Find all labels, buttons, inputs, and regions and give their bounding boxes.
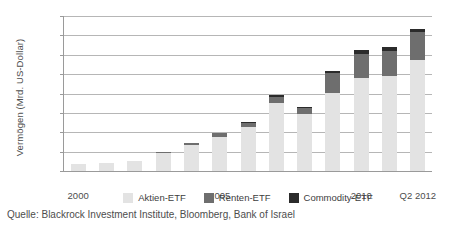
y-axis-title: Vermögen (Mrd. US-Dollar): [14, 13, 25, 183]
bar-segment-aktien-etf: [156, 153, 171, 171]
gridline: [64, 16, 432, 17]
y-tick-mark: [60, 74, 64, 75]
gridline: [64, 35, 432, 36]
bar-segment-aktien-etf: [269, 103, 284, 171]
legend-swatch-icon: [289, 193, 299, 203]
legend-swatch-icon: [123, 193, 133, 203]
bar-segment-aktien-etf: [354, 78, 369, 171]
y-tick-mark: [60, 16, 64, 17]
bar-2010[interactable]: [354, 50, 369, 171]
bar-segment-renten-etf: [382, 51, 397, 76]
bar-segment-renten-etf: [410, 32, 425, 59]
legend-swatch-icon: [204, 193, 214, 203]
legend-item-renten-etf[interactable]: Renten-ETF: [204, 192, 271, 203]
legend-label: Aktien-ETF: [138, 192, 186, 203]
chart-figure: Vermögen (Mrd. US-Dollar) 02004006008001…: [0, 0, 473, 225]
bar-segment-aktien-etf: [212, 137, 227, 171]
gridline: [64, 113, 432, 114]
bar-2001[interactable]: [99, 163, 114, 171]
y-tick-mark: [60, 94, 64, 95]
bar-segment-renten-etf: [325, 73, 340, 92]
gridline: [64, 55, 432, 56]
legend-label: Renten-ETF: [219, 192, 271, 203]
gridline: [64, 74, 432, 75]
bar-segment-aktien-etf: [71, 164, 86, 171]
bar-segment-renten-etf: [354, 54, 369, 78]
bar-2003[interactable]: [156, 152, 171, 171]
bar-segment-aktien-etf: [297, 114, 312, 171]
bar-2007[interactable]: [269, 95, 284, 171]
bar-q2-2012[interactable]: [410, 29, 425, 171]
plot-area: 02004006008001.0001.2001.4001.600 200020…: [64, 16, 432, 171]
chart-legend: Aktien-ETFRenten-ETFCommodity-ETF: [64, 192, 432, 203]
y-tick-mark: [60, 171, 64, 172]
bar-2009[interactable]: [325, 71, 340, 171]
bar-2004[interactable]: [184, 143, 199, 171]
y-tick-mark: [60, 113, 64, 114]
bar-segment-aktien-etf: [382, 76, 397, 171]
bar-segment-aktien-etf: [241, 127, 256, 171]
legend-label: Commodity-ETF: [304, 192, 373, 203]
legend-item-commodity-etf[interactable]: Commodity-ETF: [289, 192, 373, 203]
bar-segment-aktien-etf: [99, 163, 114, 171]
bar-segment-aktien-etf: [325, 93, 340, 171]
y-tick-mark: [60, 55, 64, 56]
y-tick-mark: [60, 152, 64, 153]
y-tick-mark: [60, 35, 64, 36]
y-tick-mark: [60, 132, 64, 133]
bar-2006[interactable]: [241, 122, 256, 171]
bar-2005[interactable]: [212, 133, 227, 171]
bar-2000[interactable]: [71, 164, 86, 171]
bar-segment-aktien-etf: [184, 145, 199, 171]
bar-2002[interactable]: [127, 161, 142, 171]
source-note: Quelle: Blackrock Investment Institute, …: [7, 209, 295, 220]
gridline: [64, 94, 432, 95]
bar-segment-aktien-etf: [410, 60, 425, 171]
bar-segment-aktien-etf: [127, 161, 142, 171]
legend-item-aktien-etf[interactable]: Aktien-ETF: [123, 192, 186, 203]
bar-2011[interactable]: [382, 47, 397, 171]
gridline: [64, 171, 432, 172]
bar-2008[interactable]: [297, 107, 312, 171]
